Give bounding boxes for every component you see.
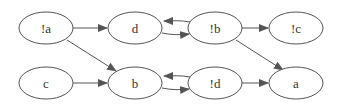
node-label: !c [291,21,301,36]
node-label: !b [210,21,221,36]
node-label: a [293,76,299,91]
edge-nd-b [164,76,190,77]
edge-na-b [67,40,116,71]
node-label: b [132,76,139,91]
edge-nb-a [236,40,283,70]
node-label: c [43,76,49,91]
edge-d-nb [162,33,189,35]
edge-nb-d [164,21,190,22]
node-label: d [132,21,139,36]
node-label: !a [41,21,51,36]
graph-canvas: !a d !b !c c b !d a [0,0,359,110]
edge-b-nd [162,88,189,90]
graph-diagram: !a d !b !c c b !d a [0,0,359,110]
node-label: !d [210,76,221,91]
